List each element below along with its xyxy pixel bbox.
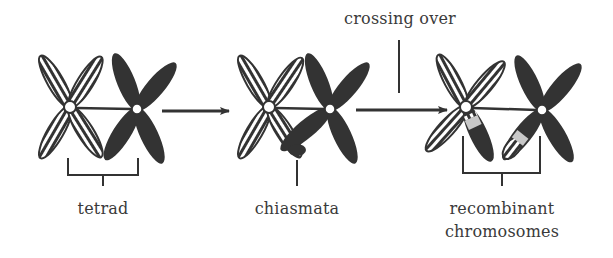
label-tetrad: tetrad [53, 199, 153, 218]
centromere [64, 101, 76, 113]
centromere [263, 101, 275, 113]
label-chromosomes: chromosomes [432, 222, 572, 241]
centromere [537, 105, 547, 115]
centromere [132, 104, 142, 114]
chiasma-overlap [288, 144, 306, 156]
striped-chromosome [34, 52, 108, 162]
label-recombinant: recombinant [432, 199, 572, 218]
centromere-link [472, 108, 537, 110]
label-chiasmata: chiasmata [237, 199, 357, 218]
centromere [325, 104, 335, 114]
tetrad-stage [34, 50, 183, 186]
tetrad-bracket [68, 158, 138, 186]
centromere-link [76, 108, 132, 109]
chiasmata-stage [233, 50, 376, 186]
centromere-link [275, 108, 325, 109]
crossing-over-diagram [0, 0, 613, 258]
recombinant-stage [421, 51, 588, 186]
label-crossing-over: crossing over [340, 9, 460, 28]
recombinant-striped-chromosome [421, 51, 510, 164]
centromere [460, 101, 472, 113]
